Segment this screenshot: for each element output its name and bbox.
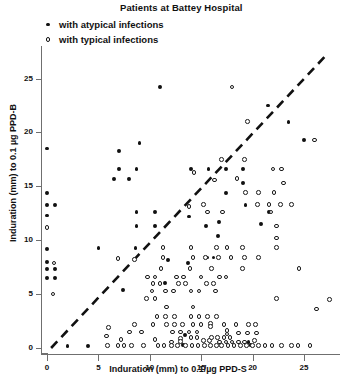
data-point-typical — [191, 322, 196, 327]
data-point-atypical — [135, 210, 139, 214]
data-point-typical — [243, 190, 248, 195]
data-point-atypical — [302, 138, 306, 142]
data-point-typical — [250, 343, 255, 348]
data-point-atypical — [121, 288, 125, 292]
data-point-typical — [224, 275, 229, 280]
data-point-atypical — [138, 141, 142, 145]
data-point-atypical — [45, 203, 49, 207]
data-point-typical — [205, 210, 210, 215]
data-point-typical — [240, 266, 245, 271]
data-point-typical — [216, 255, 221, 260]
data-point-atypical — [224, 191, 228, 195]
data-point-atypical — [66, 344, 70, 348]
data-point-atypical — [134, 246, 138, 250]
x-tick-25 — [304, 355, 305, 361]
data-point-typical — [229, 255, 234, 260]
y-axis-spine — [41, 46, 42, 350]
y-tick-label-0: 0 — [0, 343, 33, 352]
data-point-atypical — [187, 215, 191, 219]
data-point-typical — [119, 337, 124, 342]
data-point-atypical — [166, 258, 170, 262]
data-point-typical — [156, 343, 161, 348]
data-point-typical — [176, 281, 181, 286]
data-point-typical — [158, 281, 163, 286]
data-point-typical — [178, 330, 183, 335]
data-point-typical — [236, 331, 241, 336]
data-point-typical — [279, 167, 284, 172]
data-point-atypical — [153, 224, 157, 228]
data-point-typical — [297, 266, 302, 271]
data-point-typical — [150, 289, 155, 294]
y-tick-label-5: 5 — [0, 289, 33, 298]
data-point-atypical — [112, 177, 116, 181]
data-point-typical — [195, 335, 200, 340]
scatter-plot-figure: Patients at Battey Hospital with atypica… — [0, 0, 356, 385]
data-point-typical — [116, 256, 121, 261]
data-point-typical — [192, 170, 197, 175]
data-point-typical — [272, 190, 277, 195]
data-point-typical — [187, 330, 192, 335]
data-point-typical — [211, 281, 216, 286]
data-point-typical — [151, 322, 156, 327]
data-point-typical — [144, 296, 149, 301]
data-point-atypical — [287, 120, 291, 124]
data-point-atypical — [135, 167, 139, 171]
data-point-atypical — [86, 344, 90, 348]
data-point-typical — [201, 338, 206, 343]
data-point-typical — [327, 297, 332, 302]
data-point-atypical — [244, 203, 248, 207]
x-axis-title: Induration (mm) to 0.1/µg PPD-S — [0, 364, 356, 374]
data-point-typical — [196, 343, 201, 348]
reference-line — [0, 0, 356, 385]
data-point-typical — [163, 289, 168, 294]
data-point-atypical — [45, 191, 49, 195]
data-point-typical — [191, 305, 196, 310]
y-tick-15 — [36, 186, 42, 187]
data-point-typical — [155, 314, 160, 319]
data-point-atypical — [135, 224, 139, 228]
data-point-typical — [104, 334, 109, 339]
data-point-atypical — [259, 222, 263, 226]
data-point-typical — [187, 204, 192, 209]
data-point-atypical — [45, 267, 49, 271]
data-point-typical — [197, 314, 202, 319]
data-point-typical — [252, 338, 257, 343]
data-point-typical — [201, 202, 206, 207]
data-point-typical — [267, 202, 272, 207]
data-point-typical — [217, 275, 222, 280]
data-point-atypical — [127, 177, 131, 181]
data-point-typical — [106, 325, 111, 330]
data-point-typical — [188, 266, 193, 271]
data-point-typical — [197, 289, 202, 294]
data-point-atypical — [186, 261, 190, 265]
data-point-typical — [214, 314, 219, 319]
data-point-typical — [215, 335, 220, 340]
data-point-typical — [226, 343, 231, 348]
data-point-typical — [208, 343, 213, 348]
data-point-typical — [202, 343, 207, 348]
data-point-typical — [219, 343, 224, 348]
data-point-typical — [274, 224, 279, 229]
data-point-typical — [205, 314, 210, 319]
data-point-typical — [139, 330, 144, 335]
data-point-typical — [203, 255, 208, 260]
data-point-typical — [132, 322, 137, 327]
data-point-atypical — [53, 267, 57, 271]
data-point-atypical — [117, 149, 121, 153]
data-point-typical — [308, 343, 313, 348]
data-point-typical — [189, 314, 194, 319]
data-point-typical — [178, 339, 183, 344]
data-point-typical — [183, 281, 188, 286]
data-point-atypical — [212, 256, 216, 260]
data-point-atypical — [163, 281, 167, 285]
data-point-typical — [212, 178, 217, 183]
data-point-typical — [246, 322, 251, 327]
data-point-typical — [242, 157, 247, 162]
data-point-atypical — [45, 147, 49, 151]
data-point-typical — [281, 181, 286, 186]
data-point-typical — [242, 255, 247, 260]
data-point-typical — [312, 138, 317, 143]
data-point-typical — [253, 322, 258, 327]
data-point-typical — [189, 289, 194, 294]
data-point-atypical — [117, 167, 121, 171]
